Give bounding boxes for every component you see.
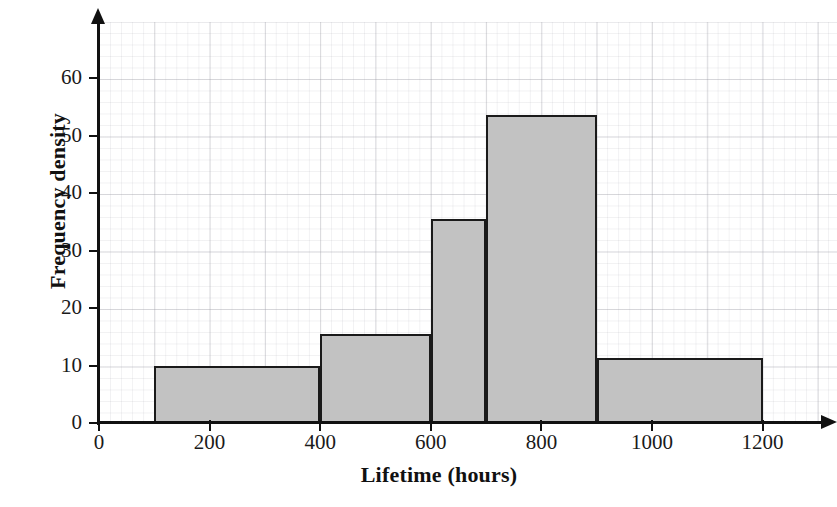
histogram-bar <box>154 366 320 424</box>
histogram-bar <box>431 219 486 423</box>
histogram-bar <box>486 115 597 423</box>
histogram-bar <box>320 334 431 423</box>
y-axis-tick <box>89 250 100 252</box>
x-axis-tick-label: 800 <box>501 432 581 453</box>
y-axis-tick <box>89 192 100 194</box>
x-axis-tick-label: 0 <box>59 432 139 453</box>
x-axis-tick-label: 400 <box>280 432 360 453</box>
y-axis-tick <box>89 77 100 79</box>
x-axis-tick-label: 600 <box>391 432 471 453</box>
x-axis-tick-label: 1200 <box>723 432 803 453</box>
x-axis-line <box>97 421 827 424</box>
x-axis-tick-label: 200 <box>170 432 250 453</box>
y-axis-title: Frequency density <box>45 51 71 351</box>
y-axis-tick-label: 0 <box>30 412 82 433</box>
x-axis-arrowhead-icon <box>821 415 837 429</box>
y-axis-arrowhead-icon <box>91 8 105 24</box>
x-axis-title: Lifetime (hours) <box>99 462 779 488</box>
histogram-chart: 0102030405060 020040060080010001200 Freq… <box>0 0 837 507</box>
y-axis-tick <box>89 365 100 367</box>
y-axis-tick-label: 10 <box>30 355 82 376</box>
histogram-bar <box>597 358 763 423</box>
y-axis-tick <box>89 135 100 137</box>
x-axis-tick-label: 1000 <box>612 432 692 453</box>
y-axis-tick <box>89 307 100 309</box>
